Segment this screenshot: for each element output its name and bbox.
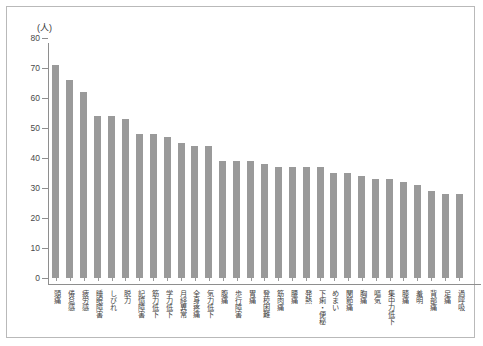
x-axis-category-label: 歩行障害 [231, 290, 242, 318]
x-axis-category-label: 膝痛 [398, 290, 409, 304]
x-axis-category-label: 筋肉痛 [273, 290, 284, 311]
x-axis-tick [223, 278, 224, 281]
x-axis-tick [306, 278, 307, 281]
x-axis-tick [56, 278, 57, 281]
x-axis-tick [278, 278, 279, 281]
x-axis-category-label: 月経異常 [176, 290, 187, 318]
y-axis-tick-label: 10 [12, 243, 40, 253]
y-axis-line [48, 43, 49, 285]
x-axis-category-label: 全身疼痛 [189, 290, 200, 318]
x-axis-tick [251, 278, 252, 281]
y-axis-tick-label: 30 [12, 183, 40, 193]
y-axis-tick-label: 0 [12, 273, 40, 283]
bar [164, 137, 171, 278]
x-axis-category-label: 集中力低下 [384, 290, 395, 325]
x-axis-category-label: 頭痛 [50, 290, 61, 304]
bar [191, 146, 198, 278]
bar [136, 134, 143, 278]
x-axis-category-label: 睡眠障害 [92, 290, 103, 318]
bar [233, 161, 240, 278]
x-axis-category-label: 胸痛 [356, 290, 367, 304]
x-axis-tick [181, 278, 182, 281]
x-axis-tick [167, 278, 168, 281]
x-axis-tick [153, 278, 154, 281]
x-axis-category-label: 過呼吸 [454, 290, 465, 311]
x-axis-category-label: 背部痛 [426, 290, 437, 311]
bar [330, 173, 337, 278]
y-axis-tick-label: 70 [12, 63, 40, 73]
y-axis-tick [42, 278, 48, 279]
y-axis-tick-label: 20 [12, 213, 40, 223]
y-axis-tick [42, 68, 48, 69]
bar [442, 194, 449, 278]
bar [372, 179, 379, 278]
x-axis-category-label: 関節痛 [342, 290, 353, 311]
y-axis-tick [42, 158, 48, 159]
chart-frame: (人) 01020304050607080 頭痛倦怠感疲労感睡眠障害しびれ脱力記… [6, 6, 475, 338]
bar [344, 173, 351, 278]
bar [456, 194, 463, 278]
x-axis-tick [70, 278, 71, 281]
x-axis-tick [292, 278, 293, 281]
bar [66, 80, 73, 278]
bar [317, 167, 324, 278]
y-axis-tick-label: 60 [12, 93, 40, 103]
bar [150, 134, 157, 278]
x-axis-tick [417, 278, 418, 281]
bar [358, 176, 365, 278]
bar [400, 182, 407, 278]
x-axis-category-label: 倦怠感 [64, 290, 75, 311]
x-axis-category-label: 足痛 [440, 290, 451, 304]
x-axis-tick [84, 278, 85, 281]
x-axis-tick [98, 278, 99, 281]
x-axis-tick [445, 278, 446, 281]
bar [414, 185, 421, 278]
x-axis-category-label: 筋力低下 [148, 290, 159, 318]
x-axis-category-label: 気力低下 [203, 290, 214, 318]
bar [247, 161, 254, 278]
bar [261, 164, 268, 278]
x-axis-tick [264, 278, 265, 281]
x-axis-tick [459, 278, 460, 281]
x-axis-category-label: 羞明 [412, 290, 423, 304]
bar [80, 92, 87, 278]
x-axis-tick [320, 278, 321, 281]
x-axis-tick [195, 278, 196, 281]
x-axis-category-label: 登校困難 [259, 290, 270, 318]
y-axis-tick [42, 188, 48, 189]
y-axis-tick [42, 98, 48, 99]
bar [275, 167, 282, 278]
x-axis-category-label: しびれ [106, 290, 117, 311]
x-axis-category-label: 脱力 [120, 290, 131, 304]
x-axis-tick [334, 278, 335, 281]
bar [289, 167, 296, 278]
y-axis-tick [42, 128, 48, 129]
x-axis-tick [139, 278, 140, 281]
y-axis-tick [42, 38, 48, 39]
x-axis-category-label: 嘔気 [370, 290, 381, 304]
x-axis-category-label: 腰痛 [287, 290, 298, 304]
x-axis-category-label: 学力低下 [162, 290, 173, 318]
x-axis-category-label: 発熱 [301, 290, 312, 304]
bar [122, 119, 129, 278]
x-axis-tick [362, 278, 363, 281]
y-axis-tick-label: 50 [12, 123, 40, 133]
x-axis-tick [125, 278, 126, 281]
x-axis-tick [390, 278, 391, 281]
x-axis-line [48, 284, 481, 285]
x-axis-tick [348, 278, 349, 281]
x-axis-tick [237, 278, 238, 281]
x-axis-category-label: 下痢・便秘 [315, 290, 326, 325]
x-axis-category-label: 胃痛 [245, 290, 256, 304]
bar [94, 116, 101, 278]
x-axis-category-label: 疲労感 [78, 290, 89, 311]
bar [428, 191, 435, 278]
x-axis-category-label: めまい [328, 290, 339, 311]
bar [303, 167, 310, 278]
y-axis-tick-label: 40 [12, 153, 40, 163]
x-axis-tick [431, 278, 432, 281]
x-axis-tick [403, 278, 404, 281]
x-axis-category-label: 記憶障害 [134, 290, 145, 318]
bar [52, 65, 59, 278]
x-axis-tick [112, 278, 113, 281]
